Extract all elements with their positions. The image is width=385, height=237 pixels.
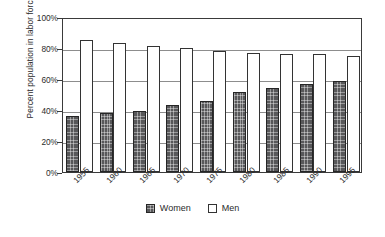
y-tick-label: 20%	[18, 137, 58, 147]
bar-women-1955	[66, 116, 79, 172]
y-tick-label: 100%	[18, 13, 58, 23]
bar-women-1980	[233, 92, 246, 172]
bar-men-1965	[147, 46, 160, 172]
bar-men-1990	[313, 54, 326, 172]
bar-women-1960	[100, 113, 113, 172]
legend-swatch-icon	[208, 204, 217, 213]
bar-men-1970	[180, 48, 193, 172]
y-tick-label: 0%	[18, 168, 58, 178]
legend-item-men[interactable]: Men	[208, 203, 240, 213]
bar-men-1975	[213, 51, 226, 172]
bar-women-1965	[133, 111, 146, 172]
bar-men-1985	[280, 54, 293, 172]
legend-label: Women	[160, 203, 191, 213]
bar-women-1990	[300, 84, 313, 172]
bar-men-1980	[247, 53, 260, 172]
bar-women-1970	[166, 105, 179, 172]
legend-swatch-icon	[146, 204, 155, 213]
y-tick-label: 40%	[18, 106, 58, 116]
bar-women-1975	[200, 101, 213, 172]
legend-label: Men	[222, 203, 240, 213]
bar-men-1995	[347, 56, 360, 172]
chart-legend: WomenMen	[0, 203, 385, 213]
plot-area	[62, 18, 362, 173]
bar-men-1960	[113, 43, 126, 172]
bar-chart: Percent population in labor force 0%20%4…	[0, 0, 385, 237]
bars-layer	[63, 19, 361, 172]
bar-men-1955	[80, 40, 93, 172]
y-tick-label: 60%	[18, 75, 58, 85]
bar-women-1985	[266, 88, 279, 172]
y-tick-label: 80%	[18, 44, 58, 54]
legend-item-women[interactable]: Women	[146, 203, 191, 213]
bar-women-1995	[333, 81, 346, 172]
y-tick-mark	[57, 173, 62, 174]
